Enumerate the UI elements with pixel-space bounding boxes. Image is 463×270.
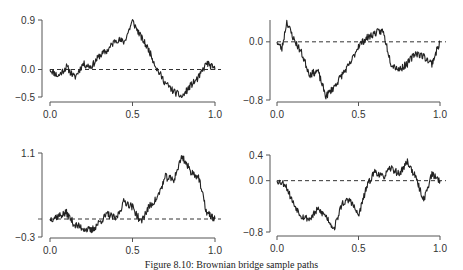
brownian-bridge-path-1 (50, 20, 215, 98)
x-tick-label: 0.0 (43, 245, 57, 256)
x-tick-label: 0.0 (270, 109, 284, 120)
x-tick-label: 0.5 (352, 109, 366, 120)
x-tick-label: 0.0 (43, 109, 57, 120)
x-tick-label: 0.5 (352, 243, 366, 254)
y-tick-label: 0.9 (21, 15, 35, 26)
y-tick-label: 0.0 (21, 64, 35, 75)
y-tick-label: −0.3 (15, 232, 35, 243)
x-tick-label: 0.5 (126, 245, 140, 256)
x-tick-label: 1.0 (208, 245, 222, 256)
x-tick-label: 0.0 (270, 243, 284, 254)
brownian-bridge-path-2 (277, 20, 440, 99)
x-tick-label: 1.0 (433, 109, 447, 120)
y-tick-label: −0.5 (15, 92, 35, 103)
y-tick-label: 0.0 (249, 36, 263, 47)
y-tick-label: 0.0 (249, 175, 263, 186)
y-tick-label: 0.4 (249, 150, 263, 161)
y-tick-label: −0.8 (243, 227, 263, 238)
brownian-bridge-path-4 (277, 159, 440, 230)
x-tick-label: 0.5 (126, 109, 140, 120)
y-tick-label: −0.8 (243, 95, 263, 106)
figure-caption: Figure 8.10: Brownian bridge sample path… (0, 259, 463, 270)
brownian-bridge-path-3 (50, 156, 215, 233)
x-tick-label: 1.0 (208, 109, 222, 120)
x-tick-label: 1.0 (433, 243, 447, 254)
y-tick-label: 1.1 (21, 148, 35, 159)
